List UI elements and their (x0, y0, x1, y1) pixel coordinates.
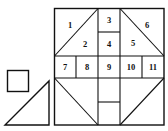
region-label-7: 7 (63, 62, 68, 72)
region-label-8: 8 (85, 62, 89, 72)
region-label-2: 2 (83, 39, 87, 49)
diagonal-5-6 (120, 9, 164, 57)
region-label-5: 5 (131, 38, 135, 48)
region-label-4: 4 (107, 39, 112, 49)
region-label-10: 10 (127, 62, 136, 72)
triangle-piece (5, 81, 49, 125)
region-label-1: 1 (68, 20, 72, 30)
puzzle-diagram: 1 2 3 4 5 6 7 8 9 10 11 (0, 0, 168, 131)
small-square-piece (8, 71, 29, 92)
region-label-6: 6 (145, 20, 149, 30)
region-label-3: 3 (107, 15, 111, 25)
diagonal-1-2 (55, 9, 99, 57)
region-label-11: 11 (149, 62, 157, 72)
region-label-9: 9 (107, 62, 111, 72)
diagonal-lower-right (120, 78, 164, 125)
diagonal-lower-left (55, 78, 99, 125)
